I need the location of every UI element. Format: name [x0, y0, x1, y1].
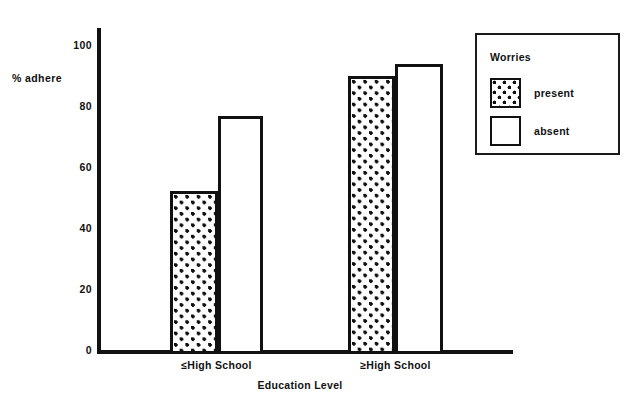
x-axis-title: Education Level	[0, 379, 600, 391]
bar-present-high-school-or-more	[348, 76, 395, 354]
legend-label-present: present	[534, 87, 574, 99]
bar-absent-high-school-or-less	[218, 116, 263, 354]
y-tick-label: 40	[2, 223, 92, 234]
legend-swatch-absent	[490, 116, 521, 146]
y-axis-title: % adhere	[12, 72, 62, 84]
x-category-label-high-school-or-more: ≥High School	[329, 359, 462, 371]
bar-present-high-school-or-less	[170, 191, 218, 354]
legend-swatch-present	[490, 78, 521, 108]
x-category-label-high-school-or-less: ≤High School	[150, 359, 283, 371]
x-axis-line	[97, 350, 513, 354]
y-tick-label: 60	[2, 162, 92, 173]
y-tick-label: 80	[2, 101, 92, 112]
y-tick-label: 20	[2, 284, 92, 295]
y-axis-line	[97, 28, 101, 354]
y-tick-label: 0	[2, 345, 92, 356]
y-tick-label: 100	[2, 40, 92, 51]
y-axis-tick-labels: 100 80 60 40 20 0	[0, 0, 92, 400]
legend: Worries present absent	[475, 33, 620, 155]
legend-title: Worries	[490, 51, 531, 63]
legend-label-absent: absent	[534, 125, 570, 137]
bar-chart: 100 80 60 40 20 0 % adhere ≤High School …	[0, 0, 643, 400]
bar-absent-high-school-or-more	[395, 64, 443, 354]
